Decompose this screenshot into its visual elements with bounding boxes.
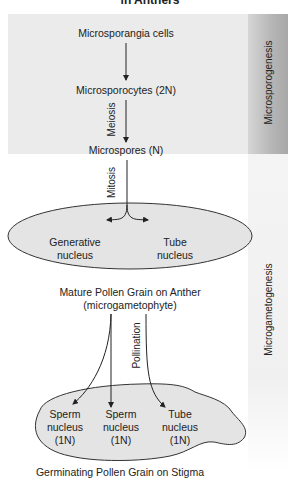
generative-line1: Generative [40, 236, 110, 249]
sperm2-line2: nucleus [96, 421, 146, 434]
sperm2-line1: Sperm [96, 408, 146, 421]
node-microsporocytes: Microsporocytes (2N) [66, 84, 186, 97]
edge-label-pollination: Pollination [131, 316, 142, 376]
mature-line2: (microgametophyte) [40, 299, 220, 312]
node-sperm-nucleus-1: Sperm nucleus (1N) [40, 408, 90, 447]
tube2-line1: Tube [155, 408, 205, 421]
sperm2-line3: (1N) [96, 434, 146, 447]
node-microsporangia-cells: Microsporangia cells [66, 27, 186, 40]
node-mature-pollen-grain: Mature Pollen Grain on Anther (microgame… [40, 286, 220, 312]
node-sperm-nucleus-2: Sperm nucleus (1N) [96, 408, 146, 447]
node-tube-nucleus-1n: Tube nucleus (1N) [155, 408, 205, 447]
sperm1-line1: Sperm [40, 408, 90, 421]
mature-line1: Mature Pollen Grain on Anther [40, 286, 220, 299]
node-germinating-pollen-grain: Germinating Pollen Grain on Stigma [20, 466, 220, 479]
sperm1-line3: (1N) [40, 434, 90, 447]
edge-label-mitosis: Mitosis [106, 163, 117, 203]
tube2-line3: (1N) [155, 434, 205, 447]
edge-label-meiosis: Meiosis [106, 100, 117, 140]
node-tube-nucleus: Tube nucleus [145, 236, 205, 262]
node-microspores: Microspores (N) [66, 144, 186, 157]
node-generative-nucleus: Generative nucleus [40, 236, 110, 262]
sperm1-line2: nucleus [40, 421, 90, 434]
tube-line1: Tube [145, 236, 205, 249]
generative-line2: nucleus [40, 249, 110, 262]
tube2-line2: nucleus [155, 421, 205, 434]
tube-line2: nucleus [145, 249, 205, 262]
